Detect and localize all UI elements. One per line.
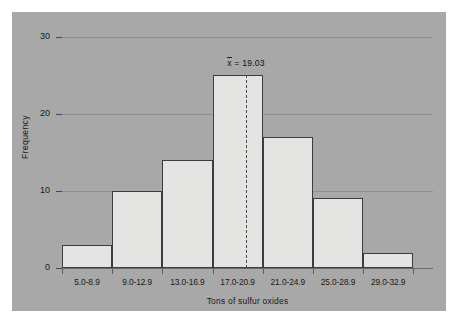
x-tick-mark-4 [263,269,264,274]
y-tick-label-10: 10 [10,186,50,195]
y-axis-title: Frequency [20,87,30,187]
x-tick-mark-6 [363,269,364,274]
bar-4 [263,137,313,268]
mean-equals: = [232,58,242,68]
x-tick-label-2: 13.0-16.9 [159,277,215,287]
x-tick-mark-0 [62,269,63,274]
mean-dashed-line [246,75,247,268]
bar-0 [62,245,112,268]
x-tick-label-4: 21.0-24.9 [260,277,316,287]
x-tick-mark-2 [162,269,163,274]
x-tick-mark-3 [213,269,214,274]
bar-3 [213,75,263,268]
y-tick-mark-20 [56,114,62,115]
histogram-figure: 30 20 10 0 Frequency x = 19.03 5.0-8.9 9… [0,0,458,324]
bar-6 [363,253,413,269]
bar-1 [112,191,162,268]
x-axis-title: Tons of sulfur oxides [62,296,433,306]
x-tick-mark-1 [112,269,113,274]
mean-annotation: x = 19.03 [201,58,291,68]
bar-2 [162,160,212,268]
x-tick-mark-7 [413,269,414,274]
bar-5 [313,198,363,268]
x-tick-label-6: 29.0-32.9 [360,277,416,287]
chart-panel: 30 20 10 0 Frequency x = 19.03 5.0-8.9 9… [12,12,446,311]
gridline-30 [62,37,433,38]
x-tick-label-1: 9.0-12.9 [109,277,165,287]
y-tick-mark-30 [56,37,62,38]
x-tick-label-5: 25.0-28.9 [310,277,366,287]
y-tick-label-0: 0 [10,263,50,272]
y-tick-mark-10 [56,191,62,192]
mean-value: 19.03 [242,58,265,68]
x-tick-mark-5 [313,269,314,274]
y-tick-label-20: 20 [10,109,50,118]
x-tick-label-0: 5.0-8.9 [59,277,115,287]
y-tick-label-30: 30 [10,32,50,41]
x-tick-label-3: 17.0-20.9 [210,277,266,287]
